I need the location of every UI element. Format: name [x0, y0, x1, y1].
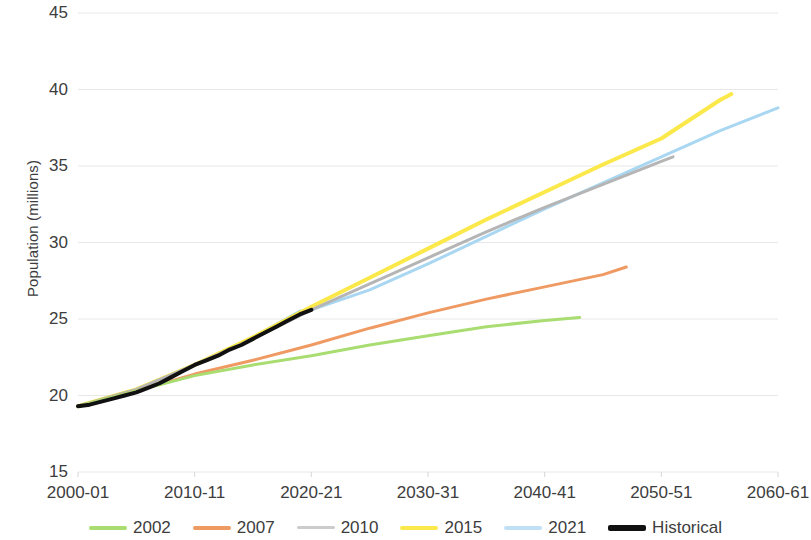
chart-legend: 20022007201020152021Historical: [0, 519, 811, 536]
x-tick-label: 2000-01: [47, 484, 109, 501]
x-tick-label: 2010-11: [164, 484, 225, 501]
legend-swatch-2015: [400, 526, 438, 530]
legend-item-2021[interactable]: 2021: [504, 519, 586, 536]
legend-label: 2007: [237, 519, 275, 536]
legend-label: 2015: [444, 519, 482, 536]
legend-swatch-2002: [89, 526, 127, 530]
x-tick-label: 2020-21: [280, 484, 342, 501]
x-tick-label: 2060-61: [747, 484, 809, 501]
legend-label: 2010: [341, 519, 379, 536]
plot-area: [0, 0, 811, 540]
legend-swatch-2010: [297, 526, 335, 529]
population-projection-chart: Population (millions) 15202530354045 200…: [0, 0, 811, 540]
legend-swatch-2021: [504, 526, 542, 530]
legend-item-historical[interactable]: Historical: [608, 519, 722, 536]
x-tick-label: 2050-51: [630, 484, 692, 501]
legend-item-2007[interactable]: 2007: [193, 519, 275, 536]
legend-swatch-2007: [193, 526, 231, 530]
legend-label: 2002: [133, 519, 171, 536]
legend-item-2015[interactable]: 2015: [400, 519, 482, 536]
legend-label: Historical: [652, 519, 722, 536]
series-line-2010: [78, 157, 673, 406]
x-tick-label: 2030-31: [397, 484, 459, 501]
series-line-2002: [78, 317, 580, 406]
x-tick-label: 2040-41: [513, 484, 575, 501]
legend-swatch-historical: [608, 525, 646, 531]
legend-item-2002[interactable]: 2002: [89, 519, 171, 536]
legend-item-2010[interactable]: 2010: [297, 519, 379, 536]
series-line-2015: [78, 94, 731, 406]
legend-label: 2021: [548, 519, 586, 536]
